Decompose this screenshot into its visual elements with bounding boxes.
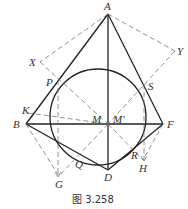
segment-DF: [108, 124, 163, 170]
dashed-AY: [108, 14, 175, 51]
label-M: M: [91, 113, 102, 125]
label-H: H: [138, 162, 148, 174]
segment-AF: [108, 14, 163, 124]
label-Y: Y: [177, 45, 185, 57]
geometry-figure: A X Y P S K B M M' F Q R H D G 图 3.258: [0, 0, 188, 209]
label-S: S: [148, 80, 154, 92]
dashed-FH: [143, 124, 163, 160]
figure-caption: 图 3.258: [72, 194, 114, 205]
label-R: R: [130, 149, 138, 161]
label-M-prime: M': [112, 113, 125, 125]
label-X: X: [28, 56, 37, 68]
dashed-BG: [26, 124, 59, 176]
label-P: P: [45, 76, 53, 88]
label-Q: Q: [75, 158, 83, 170]
dashed-AX: [40, 14, 108, 62]
label-A: A: [103, 0, 111, 12]
label-F: F: [166, 118, 174, 130]
label-D: D: [103, 171, 112, 183]
dashed-MG: [59, 124, 108, 176]
segment-BD: [26, 124, 108, 170]
label-B: B: [13, 118, 20, 130]
label-G: G: [55, 178, 63, 190]
label-K: K: [21, 104, 30, 116]
